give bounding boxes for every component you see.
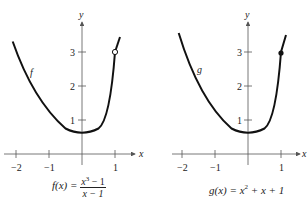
left-caption-denominator: x − 1 bbox=[80, 188, 106, 198]
left-caption-lhs: f(x) = bbox=[52, 179, 80, 191]
left-xtick-label-neg2: −2 bbox=[11, 162, 22, 173]
left-y-axis-label: y bbox=[78, 9, 84, 20]
right-ytick-label-1: 1 bbox=[237, 115, 242, 126]
right-ytick-label-3: 3 bbox=[237, 47, 242, 58]
left-caption-fraction: x3 − 1 x − 1 bbox=[80, 174, 106, 198]
right-caption: g(x) = x2 + x + 1 bbox=[209, 183, 284, 196]
right-x-axis-label: x bbox=[301, 148, 307, 159]
right-xtick-label-1: 1 bbox=[279, 162, 284, 173]
left-curve-label: f bbox=[30, 67, 34, 78]
left-curve-f bbox=[13, 42, 115, 133]
right-filled-circle bbox=[278, 50, 283, 55]
left-plot: y x −2 −1 1 1 2 3 f bbox=[4, 9, 144, 173]
left-xtick-label-neg1: −1 bbox=[44, 162, 55, 173]
left-open-circle bbox=[112, 49, 117, 54]
right-caption-lhs: g(x) = x bbox=[209, 184, 245, 196]
left-caption-numerator: x3 − 1 bbox=[80, 174, 106, 188]
left-ytick-label-3: 3 bbox=[70, 47, 75, 58]
right-xtick-label-neg1: −1 bbox=[210, 162, 221, 173]
right-ytick-label-2: 2 bbox=[237, 81, 242, 92]
right-plot: y x −2 −1 1 1 2 3 g bbox=[172, 9, 307, 173]
left-x-axis-label: x bbox=[138, 148, 144, 159]
right-caption-rest: + x + 1 bbox=[248, 184, 284, 196]
figure-canvas: y x −2 −1 1 1 2 3 f y x −2 −1 1 1 2 3 g bbox=[0, 0, 307, 198]
left-xtick-label-1: 1 bbox=[113, 162, 118, 173]
left-ytick-label-1: 1 bbox=[70, 115, 75, 126]
right-y-axis-label: y bbox=[244, 9, 250, 20]
left-caption: f(x) = x3 − 1 x − 1 bbox=[52, 174, 106, 198]
left-ytick-label-2: 2 bbox=[70, 81, 75, 92]
right-curve-label: g bbox=[197, 64, 202, 75]
right-xtick-label-neg2: −2 bbox=[177, 162, 188, 173]
right-curve-g bbox=[179, 33, 286, 133]
left-num-rest: − 1 bbox=[89, 176, 105, 187]
